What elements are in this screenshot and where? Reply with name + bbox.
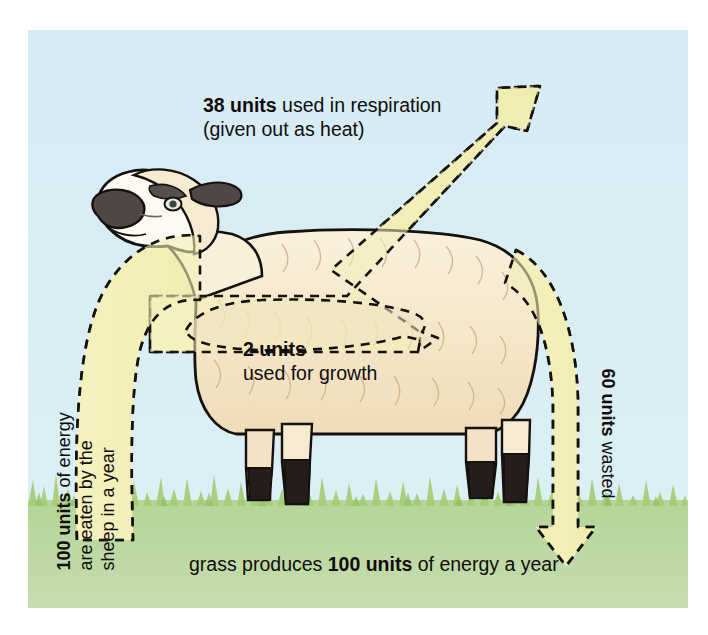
grass-label: grass produces 100 units of energy a yea… xyxy=(189,553,559,577)
respiration-value: 38 units xyxy=(203,94,277,116)
sheep-front-hoof-far xyxy=(248,468,272,500)
growth-line2: used for growth xyxy=(243,362,377,384)
sheep-hind-hoof-near xyxy=(504,454,529,502)
sheep-ear xyxy=(190,183,242,207)
wasted-value: 60 units xyxy=(598,368,618,436)
respiration-rest: used in respiration xyxy=(277,94,442,116)
respiration-label: 38 units used in respiration(given out a… xyxy=(203,94,441,142)
respiration-line2: (given out as heat) xyxy=(203,118,365,140)
grass-value: 100 units xyxy=(328,553,413,575)
grass-suffix: of energy a year xyxy=(412,553,558,575)
wasted-label: 60 units wasted xyxy=(597,368,619,553)
intake-value: 100 units xyxy=(54,492,74,570)
intake-label: 100 units of energy are eaten by the she… xyxy=(54,355,120,570)
sheep-pupil xyxy=(169,200,176,207)
growth-value: 2 units xyxy=(243,338,306,360)
sheep-front-hoof-near xyxy=(284,460,310,504)
sheep-hind-hoof-far xyxy=(468,462,495,498)
growth-label: 2 unitsused for growth xyxy=(243,338,377,386)
grass-prefix: grass produces xyxy=(189,553,328,575)
diagram-stage: 38 units used in respiration(given out a… xyxy=(0,0,708,635)
wasted-rest: wasted xyxy=(598,437,618,499)
